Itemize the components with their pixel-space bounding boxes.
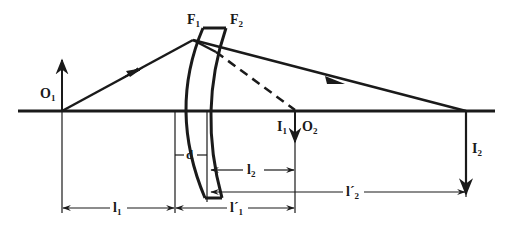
thick-lens-diagram: F1 F2 O1 I1 O2 I2 d l2 l´2 l1 l´1 [0,0,509,226]
label-l1-prime: l´1 [230,200,244,217]
label-l2-prime: l´2 [346,184,360,201]
label-d: d [186,147,194,162]
label-o2: O2 [302,119,318,136]
label-o1: O1 [40,86,56,103]
label-i2: I2 [472,141,482,158]
label-f2: F2 [230,12,244,29]
label-f1: F1 [187,12,201,29]
diagram-canvas: F1 F2 O1 I1 O2 I2 d l2 l´2 l1 l´1 [0,0,509,226]
label-l1: l1 [113,200,122,217]
dashed-extension [216,52,295,110]
label-i1: I1 [277,119,287,136]
refracted-ray [193,40,466,111]
label-l2: l2 [247,162,256,179]
lens-front-surface [186,28,205,198]
